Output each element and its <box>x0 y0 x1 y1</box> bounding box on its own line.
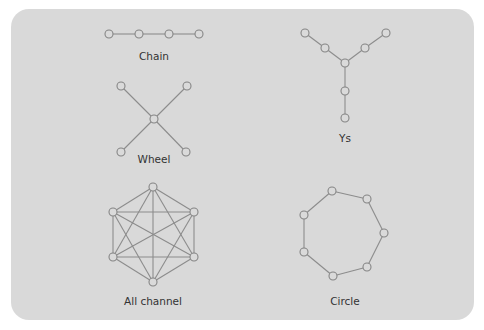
node-circle <box>149 278 157 286</box>
node-circle <box>190 208 198 216</box>
edge-line <box>304 191 332 215</box>
wheel-label: Wheel <box>138 153 171 165</box>
edge-line <box>154 119 186 152</box>
all-channel-label: All channel <box>124 295 182 307</box>
node-circle <box>341 59 349 67</box>
node-circle <box>109 253 117 261</box>
node-circle <box>135 30 143 38</box>
edge-line <box>367 199 384 233</box>
node-circle <box>165 30 173 38</box>
edge-line <box>153 257 194 282</box>
edge-line <box>154 86 187 119</box>
node-circle <box>117 148 125 156</box>
node-circle <box>341 87 349 95</box>
network-circle: Circle <box>300 187 388 307</box>
node-circle <box>329 272 337 280</box>
edge-line <box>333 267 367 276</box>
node-circle <box>363 263 371 271</box>
node-circle <box>321 44 329 52</box>
chain-label: Chain <box>139 50 169 62</box>
edge-line <box>121 119 154 152</box>
node-circle <box>183 82 191 90</box>
node-circle <box>363 195 371 203</box>
node-circle <box>301 29 309 37</box>
network-ys: Ys <box>301 29 390 144</box>
edge-line <box>304 252 333 276</box>
node-circle <box>190 253 198 261</box>
edge-line <box>153 187 194 212</box>
node-circle <box>328 187 336 195</box>
node-circle <box>195 30 203 38</box>
circle-label: Circle <box>330 295 360 307</box>
edge-line <box>121 86 154 119</box>
communication-networks-diagram: Chain Wheel Ys All channel Circle <box>0 0 484 330</box>
node-circle <box>109 208 117 216</box>
edge-line <box>113 257 153 282</box>
network-wheel: Wheel <box>117 82 191 165</box>
node-circle <box>117 82 125 90</box>
node-circle <box>341 114 349 122</box>
node-circle <box>361 44 369 52</box>
node-circle <box>150 115 158 123</box>
node-circle <box>382 29 390 37</box>
network-all-channel: All channel <box>109 183 198 307</box>
node-circle <box>300 248 308 256</box>
network-chain: Chain <box>105 30 203 62</box>
node-circle <box>380 229 388 237</box>
node-circle <box>105 30 113 38</box>
edge-line <box>332 191 367 199</box>
ys-label: Ys <box>338 132 351 144</box>
node-circle <box>149 183 157 191</box>
cropped-caption <box>30 322 250 330</box>
edge-line <box>367 233 384 267</box>
node-circle <box>300 211 308 219</box>
node-circle <box>182 148 190 156</box>
edge-line <box>113 187 153 212</box>
